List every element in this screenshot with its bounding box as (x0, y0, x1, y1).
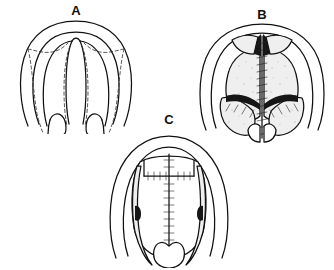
repaired-uvula (154, 243, 185, 268)
panel-b-label: B (257, 7, 266, 22)
anterior-flap-right (266, 35, 292, 54)
uvula-left-half (50, 114, 66, 134)
panel-a-label: A (71, 3, 81, 18)
panel-c: C (96, 110, 242, 268)
uvula-right-half (264, 124, 276, 142)
panel-c-label: C (164, 112, 174, 127)
cleft-margin-right (80, 41, 86, 124)
anterior-flap-left (232, 35, 258, 54)
soft-palate-edge-left (48, 120, 50, 134)
uvula-left-half (248, 124, 260, 142)
cleft-margin-left (66, 41, 72, 124)
figure-illustration: A B (0, 0, 334, 270)
figure-caption (4, 261, 124, 270)
cleft-apex (72, 38, 80, 41)
